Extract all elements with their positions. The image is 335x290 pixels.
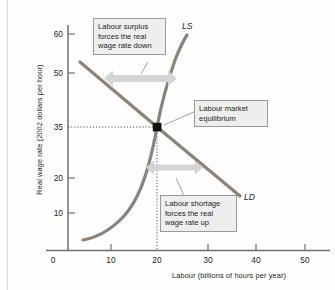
y-tick-label-10: 10 <box>39 208 63 218</box>
x-tick-label-40: 40 <box>246 255 266 265</box>
callout-equilibrium-line1: Labour market <box>199 104 263 114</box>
equilibrium-point-marker <box>153 123 162 132</box>
y-tick-label-35: 35 <box>39 122 63 132</box>
supply-curve-label: LS <box>182 21 193 31</box>
callout-labour-shortage: Labour shortage forces the real wage rat… <box>160 195 237 232</box>
x-tick-label-0: 0 <box>43 255 63 265</box>
callout-labour-surplus: Labour surplus forces the real wage rate… <box>93 18 166 55</box>
callout-surplus-line2: forces the real <box>98 32 161 42</box>
shortage-double-arrow <box>146 161 203 175</box>
callout-shortage-line3: wage rate up <box>165 218 232 228</box>
chart-canvas: Real wage rate (2002 dollars per hour) L… <box>0 0 335 290</box>
callout-labour-market-equilibrium: Labour market equilibrium <box>194 100 268 127</box>
x-tick-label-10: 10 <box>101 255 121 265</box>
callout-surplus-line3: wage rate down <box>98 41 161 51</box>
demand-curve-label: LD <box>244 192 255 202</box>
x-tick-label-20: 20 <box>147 255 167 265</box>
leader-equilibrium <box>164 111 196 125</box>
equilibrium-guides <box>68 127 157 250</box>
callout-equilibrium-line2: equilibrium <box>199 114 263 124</box>
callout-shortage-line1: Labour shortage <box>165 199 232 209</box>
y-tick-label-20: 20 <box>39 173 63 183</box>
y-axis-ticks <box>68 34 75 213</box>
y-tick-label-50: 50 <box>39 68 63 78</box>
x-axis-ticks <box>111 244 305 251</box>
leader-surplus <box>141 62 148 74</box>
labour-market-plot <box>0 0 335 290</box>
x-tick-label-30: 30 <box>198 255 218 265</box>
callout-surplus-line1: Labour surplus <box>98 22 161 32</box>
x-axis-title: Labour (billions of hours per year) <box>172 271 286 280</box>
y-tick-label-60: 60 <box>39 29 63 39</box>
callout-shortage-line2: forces the real <box>165 209 232 219</box>
x-tick-label-50: 50 <box>295 255 315 265</box>
leader-shortage <box>176 178 184 196</box>
